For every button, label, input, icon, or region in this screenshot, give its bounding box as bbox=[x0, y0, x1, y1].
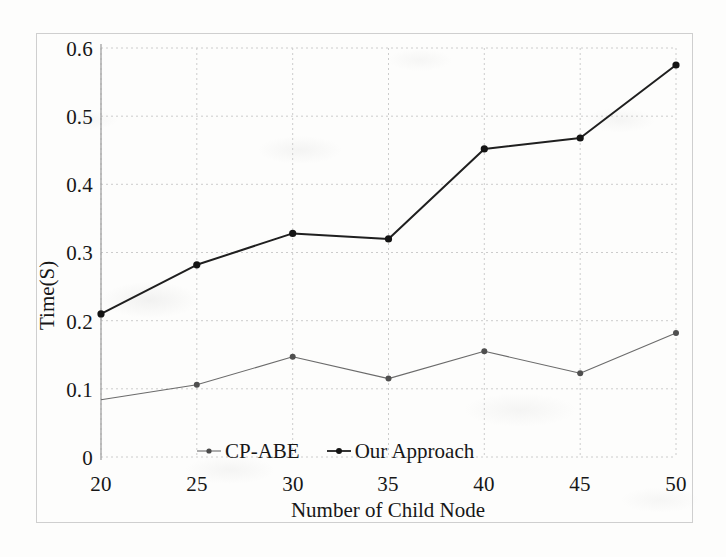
y-tick-label: 0.4 bbox=[48, 173, 93, 198]
legend-item-our-approach[interactable]: Our Approach bbox=[326, 439, 475, 464]
y-tick-label: 0.5 bbox=[48, 105, 93, 130]
x-axis-title: Number of Child Node bbox=[248, 498, 528, 523]
x-tick-label: 35 bbox=[358, 472, 418, 497]
data-point bbox=[386, 376, 392, 382]
y-tick-label: 0.6 bbox=[48, 37, 93, 62]
y-tick-label: 0.1 bbox=[48, 378, 93, 403]
grid-lines bbox=[101, 48, 676, 457]
data-point bbox=[194, 382, 200, 388]
data-point bbox=[385, 235, 392, 242]
line-marker-swatch-dark-icon bbox=[326, 445, 352, 457]
y-tick-label: 0 bbox=[48, 446, 93, 471]
x-tick-label: 25 bbox=[167, 472, 227, 497]
line-marker-swatch-light-icon bbox=[196, 445, 222, 457]
data-point bbox=[577, 370, 583, 376]
x-tick-label: 45 bbox=[550, 472, 610, 497]
x-tick-label: 40 bbox=[454, 472, 514, 497]
data-point bbox=[481, 348, 487, 354]
x-tick-label: 20 bbox=[71, 472, 131, 497]
x-tick-label: 50 bbox=[646, 472, 706, 497]
data-point bbox=[97, 310, 104, 317]
data-point bbox=[577, 134, 584, 141]
data-point bbox=[481, 145, 488, 152]
x-tick-label: 30 bbox=[263, 472, 323, 497]
data-point bbox=[672, 61, 679, 68]
chart-figure: 0.6 0.5 0.4 0.3 0.2 0.1 0 Time(S) 20 25 … bbox=[0, 0, 726, 557]
chart-legend: CP-ABE Our Approach bbox=[196, 438, 506, 464]
data-point bbox=[289, 230, 296, 237]
legend-label: Our Approach bbox=[355, 439, 475, 464]
data-point bbox=[290, 354, 296, 360]
y-axis-title: Time(S) bbox=[35, 261, 60, 330]
legend-item-cp-abe[interactable]: CP-ABE bbox=[196, 439, 300, 464]
data-point bbox=[673, 330, 679, 336]
legend-label: CP-ABE bbox=[225, 439, 300, 464]
data-point bbox=[193, 261, 200, 268]
